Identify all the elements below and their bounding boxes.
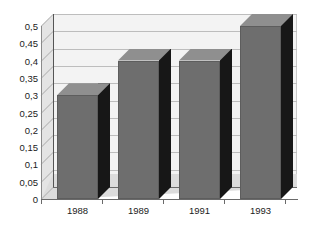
x-axis-tick-mark xyxy=(102,199,103,204)
bar-side-face xyxy=(98,83,110,199)
bar-front-face xyxy=(57,95,98,199)
x-axis-tick-label: 1991 xyxy=(189,205,210,216)
y-axis-front-edge xyxy=(41,26,42,200)
plot-area xyxy=(41,14,297,200)
bar-front-face xyxy=(118,61,159,199)
x-axis-tick-mark xyxy=(41,199,42,204)
x-axis-tick-mark xyxy=(285,199,286,204)
y-axis-tick-label: 0,1 xyxy=(25,159,38,170)
y-axis-tick-label: 0,45 xyxy=(20,38,39,49)
y-axis-tick-label: 0,5 xyxy=(25,21,38,32)
y-axis-tick-label: 0,2 xyxy=(25,124,38,135)
y-axis-tick-label: 0,4 xyxy=(25,55,38,66)
x-axis-tick-mark xyxy=(224,199,225,204)
bar-side-face xyxy=(220,49,232,199)
bar xyxy=(57,83,110,199)
bar xyxy=(179,49,232,199)
bar-front-face xyxy=(240,26,281,199)
y-axis-tick-label: 0,35 xyxy=(20,72,39,83)
bar xyxy=(118,49,171,199)
bar-front-face xyxy=(179,61,220,199)
x-axis-line xyxy=(41,199,298,200)
y-axis-tick-label: 0,25 xyxy=(20,107,39,118)
x-axis-tick-label: 1989 xyxy=(128,205,149,216)
y-axis-tick-label: 0,05 xyxy=(20,176,39,187)
x-axis-tick-label: 1988 xyxy=(67,205,88,216)
y-axis-tick-label: 0 xyxy=(33,194,38,205)
x-axis: 1988198919911993 xyxy=(0,205,309,225)
y-axis-line xyxy=(53,14,54,188)
y-axis-tick-label: 0,15 xyxy=(20,142,39,153)
y-axis-tick-label: 0,3 xyxy=(25,90,38,101)
x-axis-tick-mark xyxy=(163,199,164,204)
x-axis-tick-label: 1993 xyxy=(250,205,271,216)
bar xyxy=(240,14,293,199)
bar-side-face xyxy=(159,49,171,199)
bar-side-face xyxy=(281,14,293,199)
bar-chart: 0,50,450,40,350,30,250,20,150,10,050 198… xyxy=(0,0,309,241)
